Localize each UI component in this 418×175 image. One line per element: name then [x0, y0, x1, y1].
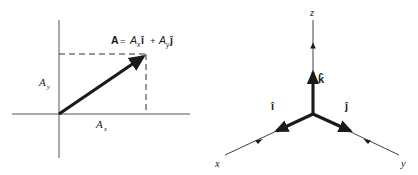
- label-component-Ay-base: A: [38, 76, 46, 88]
- vector-A-arrow: [59, 57, 144, 115]
- label-component-Ax-base: A: [95, 118, 103, 130]
- y-axis-direction-tick-icon: [363, 139, 370, 144]
- panel-three-dimensional-axes: î ĵ k̂ x y z: [209, 0, 418, 175]
- unit-vector-j-arrow: [313, 114, 351, 131]
- 3d-axes-diagram: î ĵ k̂ x y z: [209, 0, 418, 175]
- equation-equals: =: [120, 35, 126, 46]
- unit-vector-k-label: k̂: [318, 73, 325, 85]
- label-component-Ax: A x: [95, 118, 107, 132]
- equation-plus: +: [150, 35, 156, 46]
- equation-lhs: A: [111, 34, 119, 46]
- label-component-Ay-subscript: y: [46, 83, 50, 90]
- label-component-Ay: A y: [38, 76, 50, 90]
- axis-label-z: z: [309, 7, 314, 18]
- figure-root: A = A x î + A y ĵ A y A x: [0, 0, 418, 175]
- axis-label-y: y: [400, 158, 406, 169]
- equation-term2-unit-vector: ĵ: [169, 34, 174, 46]
- equation-term1-unit-vector: î: [140, 34, 145, 46]
- axis-label-x: x: [214, 158, 220, 169]
- unit-vector-i-label: î: [270, 100, 275, 112]
- 2d-vector-diagram: A = A x î + A y ĵ A y A x: [0, 0, 209, 175]
- unit-vector-i-arrow: [277, 114, 314, 131]
- x-axis-direction-tick-icon: [255, 139, 262, 144]
- label-component-Ax-subscript: x: [103, 125, 107, 132]
- unit-vector-j-label: ĵ: [344, 100, 349, 112]
- vector-equation-label: A = A x î + A y ĵ: [111, 34, 174, 49]
- z-axis-direction-tick-icon: [310, 43, 316, 49]
- equation-term1-coeff: A: [129, 34, 137, 46]
- panel-two-dimensional-vector: A = A x î + A y ĵ A y A x: [0, 0, 209, 175]
- equation-term2-coeff: A: [158, 34, 166, 46]
